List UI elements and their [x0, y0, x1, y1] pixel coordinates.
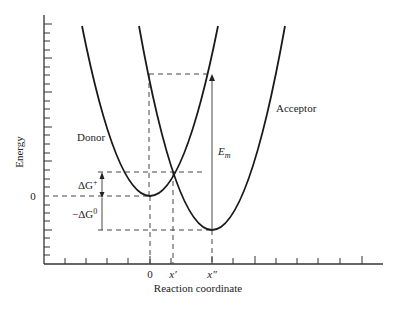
donor-label: Donor — [77, 131, 105, 143]
em-arrow-head — [209, 74, 215, 81]
em-label: Em — [217, 145, 231, 160]
x-marker-xprime: x′ — [168, 268, 177, 280]
dashed-guides — [44, 74, 212, 264]
marcus-diagram: Energy 0 Reaction coordinate 0 x′ x″ Don… — [0, 0, 398, 309]
x-marker-0: 0 — [147, 268, 153, 280]
y-ticks — [44, 24, 52, 255]
y-axis-label: Energy — [13, 136, 25, 168]
donor-curve — [82, 26, 218, 196]
x-axis-label: Reaction coordinate — [154, 282, 242, 294]
delta-g-activation-label: ΔG+ — [78, 178, 98, 191]
delta-g-activation-arrow-bottom-head — [100, 192, 105, 198]
x-marker-xdoubleprime: x″ — [206, 268, 217, 280]
y-zero-label: 0 — [30, 190, 36, 202]
acceptor-label: Acceptor — [276, 102, 317, 114]
x-ticks — [65, 256, 362, 264]
delta-g-activation-arrow-head — [100, 172, 105, 179]
neg-delta-g0-label: −ΔG0 — [72, 207, 97, 220]
